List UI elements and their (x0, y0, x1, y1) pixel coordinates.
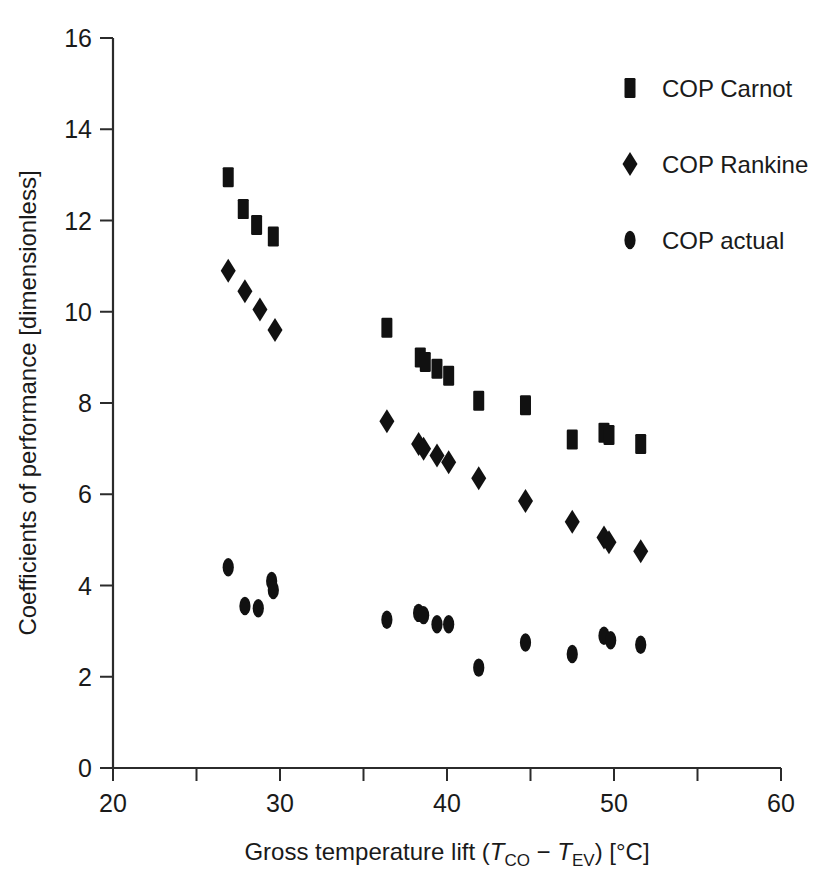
legend-label-0: COP Carnot (662, 75, 793, 102)
data-point-2-0 (223, 558, 234, 576)
legend-marker-ellipse (624, 231, 635, 249)
legend-label-2: COP actual (662, 227, 784, 254)
data-point-0-14 (635, 434, 646, 454)
data-point-1-3 (267, 318, 282, 342)
legend-marker-square (625, 78, 636, 98)
svg-text:Gross temperature lift (TCO −: Gross temperature lift (TCO − TEV) [°C] (244, 838, 649, 870)
data-point-0-13 (603, 425, 614, 445)
x-title-sub2: EV (572, 851, 595, 870)
data-point-1-11 (565, 510, 580, 534)
y-tick-label-14: 14 (64, 115, 92, 143)
data-point-1-9 (471, 466, 486, 490)
data-point-2-1 (239, 597, 250, 615)
data-point-2-5 (381, 611, 392, 629)
x-title-prefix: Gross temperature lift ( (244, 838, 489, 865)
data-point-0-2 (251, 215, 262, 235)
y-tick-label-6: 6 (78, 480, 92, 508)
y-tick-label-4: 4 (78, 572, 92, 600)
y-tick-label-8: 8 (78, 389, 92, 417)
x-tick-label-40: 40 (433, 789, 461, 817)
data-point-1-4 (379, 409, 394, 433)
x-title-minus: − (530, 838, 557, 865)
data-point-0-9 (473, 391, 484, 411)
data-point-2-7 (418, 606, 429, 624)
legend-item-cop-rankine: COP Rankine (623, 151, 809, 178)
x-axis-title: Gross temperature lift (TCO − TEV) [°C] (244, 838, 649, 870)
data-point-2-2 (253, 599, 264, 617)
y-tick-label-0: 0 (78, 754, 92, 782)
x-title-sub1: CO (504, 851, 530, 870)
axes-group (113, 38, 781, 768)
y-tick-label-10: 10 (64, 298, 92, 326)
y-tick-label-2: 2 (78, 663, 92, 691)
data-point-2-4 (268, 581, 279, 599)
data-point-0-4 (381, 318, 392, 338)
x-tick-label-50: 50 (600, 789, 628, 817)
data-point-0-11 (567, 430, 578, 450)
x-axis-ticks: 2030405060 (99, 768, 795, 817)
series-cop-rankine (221, 259, 648, 564)
y-tick-label-16: 16 (64, 24, 92, 52)
data-point-2-15 (635, 636, 646, 654)
data-point-0-0 (223, 167, 234, 187)
data-point-2-12 (567, 645, 578, 663)
y-axis-title: Coefficients of performance [dimensionle… (14, 170, 41, 635)
series-cop-actual (223, 558, 647, 677)
x-tick-label-20: 20 (99, 789, 127, 817)
data-point-1-1 (237, 279, 252, 303)
data-point-2-11 (520, 633, 531, 651)
y-tick-label-12: 12 (64, 207, 92, 235)
data-point-1-0 (221, 259, 236, 283)
scatter-plot-svg: 0246810121416 2030405060 COP CarnotCOP R… (0, 0, 826, 892)
data-point-2-10 (473, 658, 484, 676)
series-cop-carnot (223, 167, 646, 454)
data-point-0-3 (268, 226, 279, 246)
x-tick-label-30: 30 (266, 789, 294, 817)
data-point-0-10 (520, 395, 531, 415)
legend-label-1: COP Rankine (662, 151, 808, 178)
y-axis-ticks: 0246810121416 (64, 24, 113, 782)
x-tick-label-60: 60 (767, 789, 795, 817)
data-series-layer (221, 167, 648, 677)
figure-container: 0246810121416 2030405060 COP CarnotCOP R… (0, 0, 826, 892)
data-point-1-2 (252, 297, 267, 321)
legend: COP CarnotCOP RankineCOP actual (623, 75, 809, 254)
data-point-2-14 (605, 631, 616, 649)
x-title-suffix: ) [°C] (595, 838, 650, 865)
data-point-0-8 (443, 366, 454, 386)
data-point-1-14 (633, 539, 648, 563)
legend-item-cop-actual: COP actual (624, 227, 784, 254)
data-point-0-7 (431, 359, 442, 379)
data-point-0-6 (420, 352, 431, 372)
data-point-1-10 (518, 489, 533, 513)
legend-item-cop-carnot: COP Carnot (625, 75, 793, 102)
data-point-2-8 (431, 615, 442, 633)
data-point-0-1 (238, 199, 249, 219)
legend-marker-diamond (623, 152, 638, 176)
data-point-2-9 (443, 615, 454, 633)
